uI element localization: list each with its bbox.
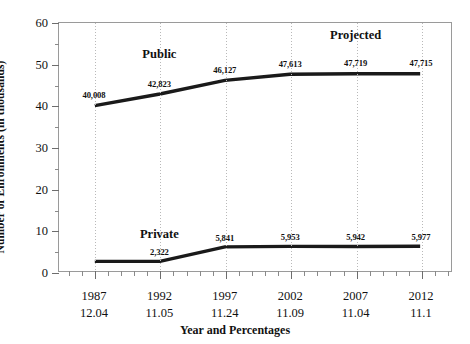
y-tick-major [52, 106, 59, 107]
x-tick-minor [121, 271, 122, 276]
x-tick-year-label: 1992 [129, 289, 189, 304]
annotation-projected: Projected [330, 28, 381, 43]
y-tick-minor [55, 169, 59, 170]
plot-area: 0102030405060 [58, 22, 452, 272]
y-tick-label: 20 [22, 182, 48, 197]
data-point-label: 5,977 [412, 232, 431, 242]
series-line-private [95, 246, 420, 261]
data-point-label: 47,719 [344, 58, 367, 68]
x-tick-year-label: 1987 [64, 289, 124, 304]
data-point-label: 47,613 [279, 59, 302, 69]
x-tick-percentage-label: 12.04 [64, 306, 124, 321]
enrollment-line-chart: Number of Enrollments (in thousands) 010… [0, 0, 470, 344]
y-tick-label: 30 [22, 141, 48, 156]
y-tick-minor [55, 252, 59, 253]
x-tick-major [291, 271, 292, 279]
y-tick-minor [55, 44, 59, 45]
y-tick-major [52, 273, 59, 274]
series-line-public [95, 74, 420, 106]
y-tick-minor [55, 86, 59, 87]
x-tick-minor [173, 271, 174, 276]
y-axis-title: Number of Enrollments (in thousands) [0, 0, 12, 42]
data-point-label: 40,008 [82, 90, 105, 100]
x-axis-title: Year and Percentages [0, 323, 470, 338]
series-lines [59, 23, 451, 271]
annotation-private: Private [140, 227, 179, 242]
gridline [95, 23, 96, 271]
y-tick-label: 60 [22, 16, 48, 31]
y-axis-title-text: Number of Enrollments (in thousands) [0, 42, 6, 272]
x-tick-percentage-label: 11.05 [129, 306, 189, 321]
x-tick-major [226, 271, 227, 279]
x-tick-major [95, 271, 96, 279]
x-tick-minor [108, 271, 109, 276]
x-tick-minor [448, 271, 449, 276]
y-tick-major [52, 231, 59, 232]
x-tick-minor [317, 271, 318, 276]
y-tick-label: 10 [22, 224, 48, 239]
x-tick-year-label: 1997 [195, 289, 255, 304]
x-tick-minor [134, 271, 135, 276]
y-tick-major [52, 23, 59, 24]
x-tick-minor [383, 271, 384, 276]
x-tick-minor [409, 271, 410, 276]
data-point-label: 5,942 [346, 232, 365, 242]
x-tick-minor [239, 271, 240, 276]
y-tick-label: 40 [22, 99, 48, 114]
y-tick-minor [55, 127, 59, 128]
x-tick-minor [278, 271, 279, 276]
x-tick-percentage-label: 11.1 [391, 306, 451, 321]
y-tick-major [52, 148, 59, 149]
x-tick-percentage-label: 11.09 [260, 306, 320, 321]
x-tick-minor [147, 271, 148, 276]
x-tick-year-label: 2007 [326, 289, 386, 304]
annotation-public: Public [142, 47, 176, 62]
x-tick-minor [370, 271, 371, 276]
x-tick-minor [396, 271, 397, 276]
x-tick-minor [187, 271, 188, 276]
x-tick-minor [69, 271, 70, 276]
x-tick-major [160, 271, 161, 279]
y-tick-label: 0 [22, 266, 48, 281]
y-tick-minor [55, 211, 59, 212]
y-tick-major [52, 65, 59, 66]
data-point-label: 5,953 [281, 232, 300, 242]
y-tick-major [52, 190, 59, 191]
x-tick-major [357, 271, 358, 279]
x-tick-minor [304, 271, 305, 276]
data-point-label: 2,322 [150, 247, 169, 257]
data-point-label: 47,715 [409, 58, 432, 68]
x-tick-minor [330, 271, 331, 276]
data-point-label: 5,841 [215, 233, 234, 243]
x-tick-year-label: 2012 [391, 289, 451, 304]
data-point-label: 42,823 [148, 79, 171, 89]
x-tick-minor [82, 271, 83, 276]
data-point-label: 46,127 [213, 65, 236, 75]
x-tick-year-label: 2002 [260, 289, 320, 304]
x-tick-minor [344, 271, 345, 276]
x-tick-minor [265, 271, 266, 276]
x-tick-percentage-label: 11.24 [195, 306, 255, 321]
x-tick-minor [200, 271, 201, 276]
y-tick-label: 50 [22, 57, 48, 72]
x-tick-minor [213, 271, 214, 276]
x-tick-minor [252, 271, 253, 276]
x-tick-percentage-label: 11.04 [326, 306, 386, 321]
x-tick-major [422, 271, 423, 279]
x-tick-minor [435, 271, 436, 276]
